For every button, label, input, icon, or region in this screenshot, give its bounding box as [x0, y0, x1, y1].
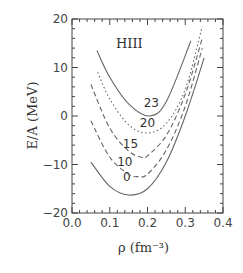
chart: 0.00.10.20.30.4−20−1001020010152023 HIII… — [0, 0, 243, 273]
svg-text:0.3: 0.3 — [176, 216, 195, 230]
svg-text:0.2: 0.2 — [138, 216, 157, 230]
svg-text:23: 23 — [144, 96, 159, 110]
svg-text:15: 15 — [123, 137, 138, 151]
annotation: HIII — [116, 36, 143, 51]
svg-text:20: 20 — [53, 12, 68, 26]
svg-text:0.4: 0.4 — [213, 216, 232, 230]
svg-text:20: 20 — [140, 116, 155, 130]
x-axis-label: ρ (fm⁻³) — [118, 240, 169, 255]
svg-text:0.1: 0.1 — [100, 216, 119, 230]
svg-text:10: 10 — [117, 155, 132, 169]
svg-text:−20: −20 — [43, 206, 68, 220]
svg-text:−10: −10 — [43, 158, 68, 172]
svg-text:0: 0 — [123, 170, 131, 184]
y-axis-label: E/A (MeV) — [25, 66, 40, 166]
svg-text:0: 0 — [60, 109, 68, 123]
svg-text:10: 10 — [53, 61, 68, 75]
